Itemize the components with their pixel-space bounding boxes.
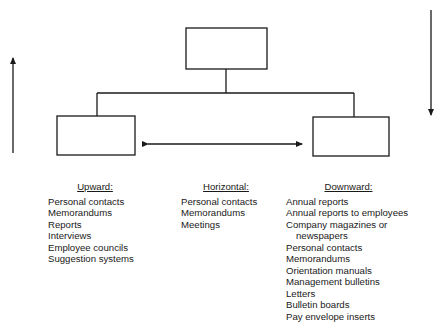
downward-list: Annual reports Annual reports to employe… — [286, 196, 411, 323]
left-box — [57, 116, 135, 155]
right-box — [313, 117, 389, 156]
list-item: Bulletin boards — [286, 299, 411, 311]
list-item: Memorandums — [48, 207, 142, 219]
list-item: Suggestion systems — [48, 253, 142, 265]
downward-column: Downward: Annual reports Annual reports … — [286, 181, 411, 322]
list-item: Company magazines or — [286, 219, 411, 231]
list-item: Annual reports to employees — [286, 207, 411, 219]
upward-heading: Upward: — [48, 181, 142, 193]
top-box — [186, 28, 267, 69]
upward-list: Personal contacts Memorandums Reports In… — [48, 196, 142, 265]
list-item: Memorandums — [181, 207, 271, 219]
list-item: Personal contacts — [181, 196, 271, 208]
list-item: Personal contacts — [48, 196, 142, 208]
horizontal-heading: Horizontal: — [181, 181, 271, 193]
list-item: Personal contacts — [286, 242, 411, 254]
list-item: newspapers — [286, 230, 411, 242]
list-item: Orientation manuals — [286, 265, 411, 277]
list-item: Employee councils — [48, 242, 142, 254]
list-item: Pay envelope inserts — [286, 311, 411, 323]
horizontal-column: Horizontal: Personal contacts Memorandum… — [181, 181, 271, 230]
horizontal-list: Personal contacts Memorandums Meetings — [181, 196, 271, 231]
list-item: Reports — [48, 219, 142, 231]
list-item: Meetings — [181, 219, 271, 231]
upward-column: Upward: Personal contacts Memorandums Re… — [48, 181, 142, 265]
list-item: Interviews — [48, 230, 142, 242]
list-item: Management bulletins — [286, 276, 411, 288]
downward-heading: Downward: — [286, 181, 411, 193]
list-item: Letters — [286, 288, 411, 300]
list-item: Annual reports — [286, 196, 411, 208]
list-item: Memorandums — [286, 253, 411, 265]
